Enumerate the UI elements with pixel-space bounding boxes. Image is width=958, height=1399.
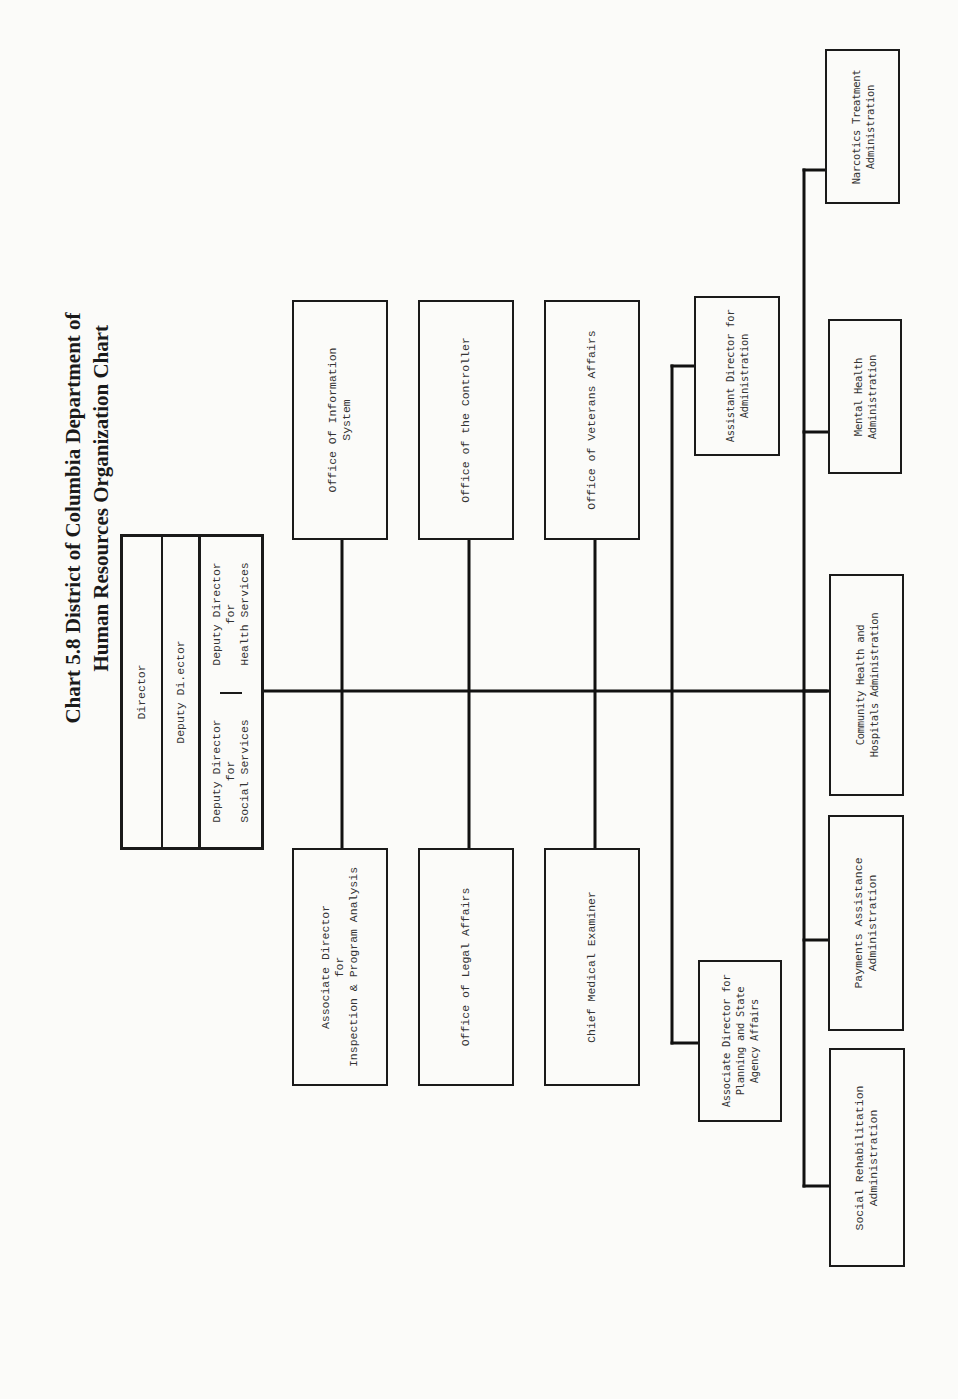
payments-assistance-administration: Payments Assistance Administration	[828, 815, 904, 1031]
community-health-hospitals-administration: Community Health and Hospitals Administr…	[829, 574, 904, 796]
box-line: Payments Assistance	[852, 857, 866, 988]
box-line: Hospitals Administration	[867, 613, 881, 758]
box-line: Office of the Controller	[459, 337, 473, 503]
box-line: Community Health and	[853, 613, 867, 758]
box-line: Administration	[867, 1085, 881, 1230]
box-line: Social Rehabilitation	[853, 1085, 867, 1230]
director-label: Director	[135, 664, 149, 719]
box-line: Administration	[737, 310, 751, 442]
chart-title: Chart 5.8 District of Columbia Departmen…	[52, 88, 122, 948]
deputy-social-line: for	[224, 719, 238, 823]
box-line: Administration	[865, 354, 879, 438]
deputy-director-label: Deputy Di.ector	[174, 640, 188, 744]
office-legal-affairs: Office of Legal Affairs	[418, 848, 514, 1086]
box-line: Associate Director for	[719, 975, 733, 1107]
associate-director-inspection: Associate Director for Inspection & Prog…	[292, 848, 388, 1086]
box-line: Agency Affairs	[747, 975, 761, 1107]
box-line: Associate Director	[319, 867, 333, 1067]
title-line-1: Chart 5.8 District of Columbia Departmen…	[59, 312, 87, 723]
box-line: Administration	[863, 69, 877, 183]
deputy-social-line: Deputy Director	[210, 719, 224, 823]
deputy-social-line: Social Services	[238, 719, 252, 823]
box-line: Assistant Director for	[723, 310, 737, 442]
box-line: Office of Legal Affairs	[459, 888, 473, 1047]
deputy-social-cell: Deputy Director for Social Services	[201, 694, 261, 847]
box-line: Narcotics Treatment	[849, 69, 863, 183]
assistant-director-administration: Assistant Director for Administration	[694, 296, 780, 456]
deputy-health-cell: Deputy Director for Health Services	[201, 537, 261, 692]
box-line: Office of Veterans Affairs	[585, 330, 599, 509]
leadership-box: Director Deputy Di.ector Deputy Director…	[120, 534, 264, 850]
box-line: System	[340, 348, 354, 493]
deputy-director-cell: Deputy Di.ector	[163, 537, 201, 847]
title-line-2: Human Resources Organization Chart	[87, 312, 115, 723]
box-line: Administration	[866, 857, 880, 988]
associate-director-planning: Associate Director for Planning and Stat…	[698, 960, 782, 1122]
social-rehabilitation-administration: Social Rehabilitation Administration	[829, 1048, 905, 1267]
deputy-health-line: Health Services	[238, 562, 252, 666]
office-veterans-affairs: Office of Veterans Affairs	[544, 300, 640, 540]
office-information-system: Office Of Information System	[292, 300, 388, 540]
box-line: Inspection & Program Analysis	[347, 867, 361, 1067]
narcotics-treatment-administration: Narcotics Treatment Administration	[825, 49, 900, 204]
box-line: Office Of Information	[326, 348, 340, 493]
box-line: for	[333, 867, 347, 1067]
box-line: Chief Medical Examiner	[585, 891, 599, 1043]
deputy-health-line: Deputy Director	[210, 562, 224, 666]
office-controller: Office of the Controller	[418, 300, 514, 540]
chief-medical-examiner: Chief Medical Examiner	[544, 848, 640, 1086]
mental-health-administration: Mental Health Administration	[828, 319, 902, 474]
deputy-health-line: for	[224, 562, 238, 666]
box-line: Mental Health	[851, 354, 865, 438]
box-line: Planning and State	[733, 975, 747, 1107]
director-cell: Director	[123, 537, 163, 847]
